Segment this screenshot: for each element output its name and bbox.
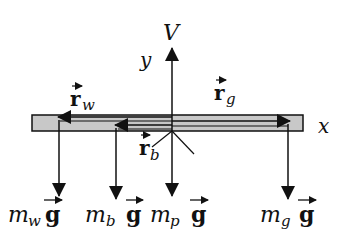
svg-text:b: b	[150, 146, 160, 164]
v-label: V	[163, 20, 181, 45]
svg-text:p: p	[170, 212, 180, 230]
svg-text:b: b	[106, 212, 116, 230]
svg-text:g: g	[126, 201, 141, 227]
pivot-line-right	[172, 131, 194, 154]
diagram-canvas: V y x r w r g r b m w g m b g m p g m g	[0, 0, 344, 249]
svg-text:g: g	[281, 212, 291, 230]
svg-text:g: g	[191, 201, 206, 227]
svg-text:r: r	[214, 81, 225, 105]
r-g-label: r g	[214, 80, 236, 108]
weight-label-g: m g g	[260, 200, 316, 230]
x-axis-label: x	[318, 114, 329, 138]
weight-label-b: m b g	[85, 200, 143, 230]
svg-text:w: w	[28, 212, 41, 230]
svg-text:g: g	[226, 90, 236, 108]
r-b-label: r b	[139, 135, 160, 164]
svg-text:g: g	[45, 201, 60, 227]
weight-label-p: m p g	[150, 200, 208, 230]
svg-text:w: w	[82, 96, 95, 114]
svg-text:m: m	[85, 202, 106, 227]
svg-text:r: r	[139, 136, 150, 160]
free-body-diagram: V y x r w r g r b m w g m b g m p g m g	[0, 0, 344, 249]
svg-text:m: m	[150, 202, 171, 227]
svg-text:r: r	[70, 87, 81, 111]
pivot-line-left	[152, 131, 172, 147]
y-axis-label: y	[139, 48, 152, 72]
svg-text:m: m	[8, 202, 29, 227]
r-w-label: r w	[70, 86, 95, 114]
svg-text:g: g	[299, 201, 314, 227]
weight-label-w: m w g	[8, 200, 62, 230]
svg-text:m: m	[260, 202, 281, 227]
